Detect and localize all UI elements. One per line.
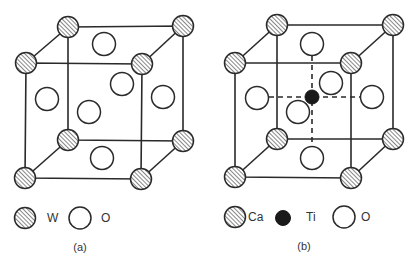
tungsten-atom (16, 53, 37, 74)
legend-o-label: O (101, 211, 110, 225)
titanium-atom (305, 90, 319, 104)
panel-b-unit-cell (225, 15, 404, 189)
tungsten-atom (131, 169, 152, 190)
legend-o-open-circle-icon (69, 207, 91, 229)
tungsten-atom (58, 17, 79, 38)
panel-a-caption: (a) (73, 241, 86, 253)
panel-a-legend: W O (a) (15, 207, 111, 253)
calcium-atom (267, 15, 288, 36)
legend-ti-label: Ti (306, 210, 316, 224)
legend-o-open-circle-icon (333, 206, 355, 228)
oxygen-atom-back (111, 73, 134, 96)
tungsten-atom (173, 131, 194, 152)
calcium-atom (341, 53, 362, 74)
calcium-atom (383, 129, 404, 150)
oxygen-atom-front (78, 101, 101, 124)
oxygen-atom-front (287, 101, 310, 124)
crystal-structure-figure: W O (a) (0, 0, 415, 265)
oxygen-atom-top (93, 33, 116, 56)
oxygen-atom-right (152, 86, 175, 109)
tungsten-atom (15, 168, 36, 189)
oxygen-atom-right (361, 86, 384, 109)
oxygen-atom-left (36, 88, 59, 111)
legend-w-label: W (47, 211, 59, 225)
calcium-atom (225, 167, 246, 188)
tungsten-atom (58, 130, 79, 151)
oxygen-atom-back (320, 72, 343, 95)
calcium-atom (341, 168, 362, 189)
tungsten-atom (132, 54, 153, 75)
calcium-atom (225, 53, 246, 74)
panel-b-caption: (b) (297, 240, 310, 252)
panel-a-unit-cell (15, 16, 194, 190)
oxygen-atom-top (301, 33, 324, 56)
legend-ca-hatched-circle-icon (225, 207, 246, 228)
oxygen-atom-bottom (301, 147, 324, 170)
legend-ca-label: Ca (248, 210, 264, 224)
calcium-atom (383, 15, 404, 36)
tungsten-atom (173, 16, 194, 37)
legend-ti-filled-circle-icon (276, 211, 291, 226)
legend-o-label: O (361, 210, 370, 224)
oxygen-atom-left (246, 87, 269, 110)
oxygen-atom-bottom (91, 147, 114, 170)
panel-b-legend: Ca Ti O (b) (225, 206, 371, 252)
calcium-atom (267, 129, 288, 150)
legend-w-hatched-circle-icon (15, 208, 36, 229)
